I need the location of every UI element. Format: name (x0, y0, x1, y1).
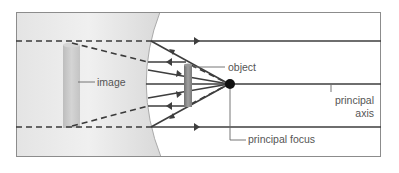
principal-axis-label-line2: axis (355, 107, 374, 119)
light-rays (146, 41, 381, 127)
lens-diagram: image object principal focus principal a… (0, 0, 399, 173)
object (184, 64, 192, 108)
principal-focus-point (225, 79, 235, 89)
virtual-image (63, 43, 80, 129)
principal-axis-label-line1: principal (335, 94, 374, 106)
concave-lens (16, 12, 161, 157)
principal-focus-label: principal focus (248, 133, 315, 145)
image-label: image (97, 76, 126, 88)
object-label: object (228, 61, 256, 73)
